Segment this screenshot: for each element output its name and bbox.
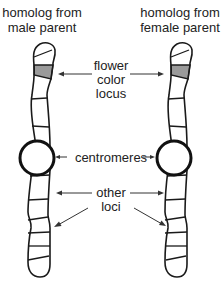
homologous-chromosomes-diagram: homolog from male parent homolog from fe…	[0, 0, 222, 285]
right-band	[171, 50, 189, 57]
right-band	[165, 217, 185, 220]
right-centromere	[157, 141, 191, 175]
flower-color-locus-label-line-2: color	[97, 72, 126, 87]
left-band	[32, 126, 49, 127]
left-title-line-2: male parent	[8, 20, 77, 35]
left-lower-arm-outline	[28, 170, 50, 277]
left-upper-arm-outline	[31, 43, 55, 147]
right-band	[165, 232, 187, 233]
other-loci-arrowhead-lower-right	[159, 221, 166, 227]
other-loci-label-line-2: loci	[101, 199, 121, 214]
right-upper-arm-outline	[168, 43, 192, 147]
centromere-arrowhead-left	[55, 155, 60, 159]
right-band	[165, 199, 185, 200]
left-chromosome	[20, 43, 55, 277]
other-loci-arrow-lower-left	[58, 208, 88, 225]
right-band	[169, 126, 186, 127]
right-title-line-1: homolog from	[140, 5, 219, 20]
right-band	[168, 98, 184, 99]
centromere-arrowhead-right	[150, 155, 155, 159]
right-flower-color-locus-band	[171, 65, 190, 79]
left-centromere	[20, 141, 54, 175]
other-loci-label-line-1: other	[96, 185, 126, 200]
other-loci-arrow-lower-right	[134, 208, 162, 224]
left-flower-color-locus-band	[34, 65, 53, 79]
left-band	[28, 256, 49, 260]
flower-locus-arrowhead-left	[58, 72, 64, 77]
right-title-line-2: female parent	[140, 20, 220, 35]
flower-color-locus-label-line-1: flower	[94, 58, 129, 73]
other-loci-arrowhead-upper-right	[158, 191, 164, 196]
right-band	[166, 256, 186, 260]
other-loci-arrowhead-lower-left	[54, 222, 62, 228]
centromeres-label: centromeres	[75, 150, 148, 165]
flower-color-locus-label-line-3: locus	[96, 86, 127, 101]
left-band	[28, 217, 48, 220]
other-loci-arrowhead-upper-left	[56, 191, 62, 196]
flower-locus-arrowhead-right	[158, 72, 164, 77]
left-title-line-1: homolog from	[2, 5, 81, 20]
left-band	[28, 232, 50, 233]
left-band	[34, 50, 52, 57]
right-chromosome	[157, 43, 192, 277]
left-band	[31, 98, 47, 99]
right-lower-arm-outline	[165, 170, 187, 277]
left-band	[28, 199, 48, 200]
